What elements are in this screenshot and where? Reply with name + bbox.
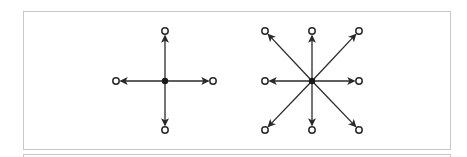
neighbor-node-up xyxy=(309,28,315,34)
arrow-down-right xyxy=(312,81,356,127)
neighbor-node-down xyxy=(162,127,168,133)
neighbor-node-up-left xyxy=(262,28,268,34)
arrow-down-left xyxy=(268,81,312,127)
neighbor-node-down xyxy=(309,127,315,133)
arrow-up-left xyxy=(268,34,312,81)
neighbor-node-right xyxy=(356,78,362,84)
neighbor-node-down-left xyxy=(262,127,268,133)
neighbor-node-down-right xyxy=(356,127,362,133)
neighbor-node-left xyxy=(262,78,268,84)
arrow-up-right xyxy=(312,34,356,81)
neighbor-node-right xyxy=(210,78,216,84)
neighbor-node-up-right xyxy=(356,28,362,34)
center-node xyxy=(309,78,315,84)
eight-connectivity-panel xyxy=(262,28,362,133)
four-connectivity-panel xyxy=(113,28,216,133)
neighbor-node-up xyxy=(162,28,168,34)
neighbor-node-left xyxy=(113,78,119,84)
center-node xyxy=(162,78,168,84)
connectivity-diagram xyxy=(0,0,467,157)
